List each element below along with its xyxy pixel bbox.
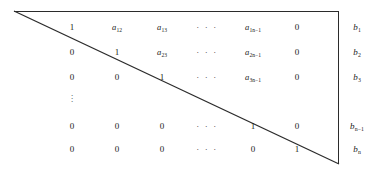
matrix-cell-r5c4-ellipsis: · · · (196, 144, 218, 154)
matrix-top-border (14, 11, 339, 12)
matrix-cell-r3c4-ellipsis: · · · (196, 72, 218, 82)
matrix-cell-r2c3-symbol: a23 (157, 47, 167, 58)
matrix-cell-r1c6-value: 0 (295, 22, 300, 32)
matrix-cell-r4c3-value: 0 (160, 121, 165, 131)
matrix-cell-r1c1-value: 1 (70, 22, 75, 32)
matrix-cell-r4c4-ellipsis: · · · (196, 121, 218, 131)
matrix-cell-r2c1-value: 0 (70, 47, 75, 57)
matrix-diagonal-line (0, 0, 381, 175)
rhs-vector-entry-2: b2 (353, 47, 361, 58)
rhs-vector-entry-1: b1 (353, 22, 361, 33)
matrix-cell-r4c1-value: 0 (70, 121, 75, 131)
matrix-cell-r4c5-value: 1 (251, 121, 256, 131)
vdot-3: . (71, 98, 73, 101)
matrix-cell-r4c6-value: 0 (295, 121, 300, 131)
matrix-cell-r1c4-ellipsis: · · · (196, 22, 218, 32)
matrix-cell-r1c2-symbol: a12 (112, 22, 122, 33)
matrix-cell-r5c3-value: 0 (160, 144, 165, 154)
matrix-cell-r3c5-symbol: a3n−1 (245, 72, 261, 83)
matrix-cell-r1c5-symbol: a1n−1 (245, 22, 261, 33)
rhs-vector-entry-4: bn−1 (350, 121, 364, 132)
matrix-cell-r2c6-value: 0 (295, 47, 300, 57)
matrix-cell-r2c2-value: 1 (115, 47, 120, 57)
matrix-cell-r4c2-value: 0 (115, 121, 120, 131)
matrix-cell-r3c2-value: 0 (115, 72, 120, 82)
matrix-cell-r3c3-value: 1 (160, 72, 165, 82)
rhs-vector-entry-3: b3 (353, 72, 361, 83)
matrix-cell-r3c6-value: 0 (295, 72, 300, 82)
matrix-cell-r5c6-value: 1 (295, 144, 300, 154)
matrix-cell-r2c4-ellipsis: · · · (196, 47, 218, 57)
matrix-cell-r3c1-value: 0 (70, 72, 75, 82)
vertical-ellipsis: . . . (71, 92, 73, 101)
matrix-right-border (338, 11, 339, 164)
matrix-cell-r2c5-symbol: a2n−1 (245, 47, 261, 58)
matrix-cell-r5c1-value: 0 (70, 144, 75, 154)
matrix-cell-r5c2-value: 0 (115, 144, 120, 154)
rhs-vector-entry-5: bn (353, 144, 361, 155)
matrix-cell-r5c5-value: 0 (251, 144, 256, 154)
matrix-figure: . . . 1a12a13· · ·a1n−10b101a23· · ·a2n−… (0, 0, 381, 175)
matrix-cell-r1c3-symbol: a13 (157, 22, 167, 33)
